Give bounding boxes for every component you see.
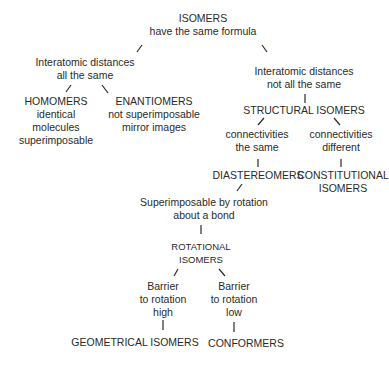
- node-text: Barrier: [140, 280, 187, 293]
- node-connectivities-different: connectivities different: [309, 128, 372, 154]
- node-constitutional-isomers: CONSTITUTIONAL ISOMERS: [297, 169, 389, 195]
- node-connectivities-same: connectivities the same: [225, 128, 288, 154]
- node-text: low: [211, 306, 258, 319]
- node-title: ENANTIOMERS: [108, 95, 200, 108]
- node-text: identical: [19, 108, 93, 121]
- node-text: Superimposable by rotation: [140, 196, 268, 209]
- node-title: DIASTEREOMERS: [212, 169, 303, 182]
- node-diastereomers: DIASTEREOMERS: [212, 169, 303, 182]
- node-text: Interatomic distances: [35, 56, 134, 69]
- node-text: Interatomic distances: [254, 65, 353, 78]
- node-text: superimposable: [19, 134, 93, 147]
- node-title: ISOMERS: [150, 12, 257, 25]
- node-text: to rotation: [211, 293, 258, 306]
- node-enantiomers: ENANTIOMERS not superimposable mirror im…: [108, 95, 200, 134]
- node-distances-different: Interatomic distances not all the same: [254, 65, 353, 91]
- node-barrier-low: Barrier to rotation low: [211, 280, 258, 319]
- node-title: ISOMERS: [171, 253, 230, 266]
- node-text: the same: [225, 141, 288, 154]
- node-title: ROTATIONAL: [171, 240, 230, 253]
- node-text: Barrier: [211, 280, 258, 293]
- node-text: high: [140, 306, 187, 319]
- node-text: about a bond: [140, 209, 268, 222]
- node-conformers: CONFORMERS: [208, 337, 284, 350]
- node-barrier-high: Barrier to rotation high: [140, 280, 187, 319]
- node-superimposable-rotation: Superimposable by rotation about a bond: [140, 196, 268, 222]
- node-title: STRUCTURAL ISOMERS: [243, 104, 365, 117]
- node-text: molecules: [19, 121, 93, 134]
- node-title: GEOMETRICAL ISOMERS: [71, 336, 198, 349]
- node-text: not all the same: [254, 78, 353, 91]
- node-text: connectivities: [225, 128, 288, 141]
- node-title: HOMOMERS: [19, 95, 93, 108]
- node-text: mirror images: [108, 121, 200, 134]
- node-text: all the same: [35, 69, 134, 82]
- node-text: connectivities: [309, 128, 372, 141]
- node-structural-isomers: STRUCTURAL ISOMERS: [243, 104, 365, 117]
- node-homomers: HOMOMERS identical molecules superimposa…: [19, 95, 93, 147]
- node-title: CONFORMERS: [208, 337, 284, 350]
- node-text: not superimposable: [108, 108, 200, 121]
- node-isomers: ISOMERS have the same formula: [150, 12, 257, 38]
- node-text: different: [309, 141, 372, 154]
- node-title: ISOMERS: [297, 182, 389, 195]
- node-rotational-isomers: ROTATIONAL ISOMERS: [171, 240, 230, 266]
- node-geometrical-isomers: GEOMETRICAL ISOMERS: [71, 336, 198, 349]
- node-subtitle: have the same formula: [150, 25, 257, 38]
- node-title: CONSTITUTIONAL: [297, 169, 389, 182]
- node-distances-same: Interatomic distances all the same: [35, 56, 134, 82]
- node-text: to rotation: [140, 293, 187, 306]
